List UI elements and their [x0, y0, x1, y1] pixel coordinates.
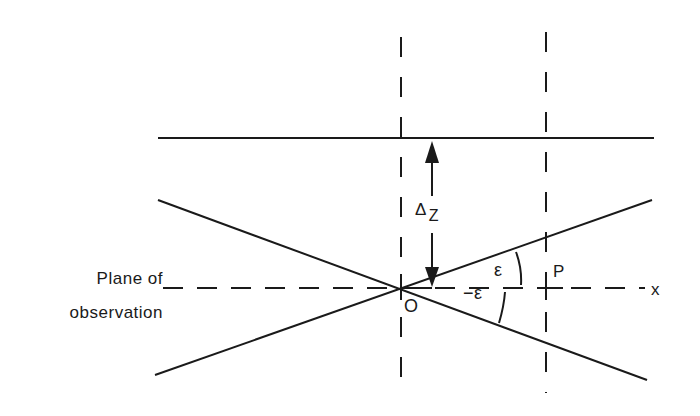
- x-axis-label: x: [651, 280, 660, 300]
- plane-label-line2: observation: [33, 296, 163, 330]
- epsilon-label: ε: [494, 260, 503, 281]
- delta-subscript: Z: [429, 207, 439, 224]
- angle-arc-epsilon: [516, 252, 521, 285]
- plane-of-observation-label: Plane of observation: [33, 262, 163, 330]
- delta-z-label: ΔZ: [415, 200, 439, 225]
- origin-label: O: [404, 296, 419, 317]
- plane-label-line1: Plane of: [33, 262, 163, 296]
- arrow-down-icon: [425, 267, 439, 287]
- delta-symbol: Δ: [415, 200, 427, 219]
- arrow-up-icon: [425, 141, 439, 163]
- point-p-label: P: [553, 262, 565, 282]
- neg-epsilon-label: −ε: [463, 283, 483, 304]
- angle-arc-neg-epsilon: [499, 292, 505, 323]
- diffraction-diagram: [0, 0, 700, 416]
